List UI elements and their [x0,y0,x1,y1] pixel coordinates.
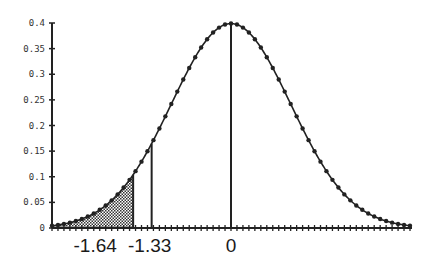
crosshatch-fill [52,175,133,228]
curve-marker [145,149,149,153]
curve-marker [50,224,54,228]
curve-marker [360,208,364,212]
curve-marker [312,149,316,153]
curve-marker [247,30,251,34]
normal-distribution-chart: 00.050.10.150.20.250.30.350.4 -1.64-1.33… [0,0,425,267]
curve-marker [384,219,388,223]
curve-marker [348,198,352,202]
curve-marker [169,102,173,106]
curve-marker [181,77,185,81]
y-tick-label: 0.1 [29,172,45,182]
curve-marker [265,55,269,59]
curve-marker [318,159,322,163]
y-tick-label: 0.05 [23,197,45,207]
x-value-label: -1.64 [73,235,117,256]
curve-marker [253,37,257,41]
curve-marker [151,138,155,142]
curve-marker [80,217,84,221]
curve-marker [223,22,227,26]
curve-marker [92,211,96,215]
curve-marker [139,159,143,163]
curve-marker [175,89,179,93]
curve-marker [133,169,137,173]
curve-marker [235,22,239,26]
y-tick-label: 0.25 [23,95,45,105]
curve-marker [74,219,78,223]
x-value-label: -1.33 [128,235,171,256]
curve-marker [211,30,215,34]
curve-marker [56,223,60,227]
y-tick-label: 0.35 [23,44,45,54]
curve-marker [86,214,90,218]
curve-marker [241,25,245,29]
curve-marker [127,178,131,182]
curve-marker [354,203,358,207]
curve-marker [402,223,406,227]
curve-marker [62,222,66,226]
curve-marker [283,89,287,93]
y-tick-label: 0.4 [29,18,45,28]
curve-marker [98,208,102,212]
x-axis-labels: -1.64-1.330 [73,235,236,256]
curve-marker [330,178,334,182]
curve-marker [277,77,281,81]
curve-marker [187,66,191,70]
curve-marker [378,217,382,221]
curve-marker [157,126,161,130]
curve-marker [324,169,328,173]
y-tick-label: 0.3 [29,69,45,79]
curve-marker [205,37,209,41]
curve-marker [68,220,72,224]
curve-marker [104,203,108,207]
x-value-label: 0 [226,235,237,256]
vertical-lines [152,24,231,228]
y-tick-label: 0 [40,223,45,233]
curve-marker [306,138,310,142]
curve-marker [342,192,346,196]
curve-marker [408,224,412,228]
curve-marker [199,45,203,49]
y-tick-label: 0.15 [23,146,45,156]
curve-marker [115,192,119,196]
curve-marker [372,214,376,218]
curve-marker [396,222,400,226]
curve-marker [193,55,197,59]
curve-marker [259,45,263,49]
curve-marker [121,185,125,189]
curve-marker [163,114,167,118]
curve-marker [300,126,304,130]
curve-marker [336,185,340,189]
curve-marker [229,21,233,25]
curve-marker [271,66,275,70]
shaded-tail-region [52,175,133,228]
curve-marker [366,211,370,215]
curve-marker [294,114,298,118]
curve-marker [390,220,394,224]
y-axis: 00.050.10.150.20.250.30.350.4 [23,18,55,233]
curve-marker [109,198,113,202]
curve-marker [288,102,292,106]
curve-marker [217,25,221,29]
y-tick-label: 0.2 [29,121,45,131]
